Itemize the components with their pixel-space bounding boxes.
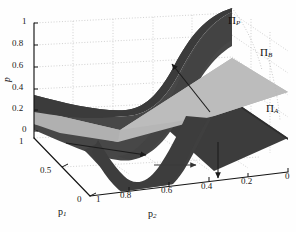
tick-p2-02: 0.2: [241, 176, 252, 186]
tick-p-0: 0: [22, 124, 27, 134]
plot-canvas: [0, 0, 296, 232]
tick-p2-1: 1: [96, 194, 101, 204]
tick-p1-1: 1: [19, 136, 24, 146]
tick-p2-08: 0.8: [120, 190, 131, 200]
axis-label-p1: p1: [58, 206, 67, 218]
tick-p-08: 0.8: [12, 38, 23, 48]
surface-label-pi-p: ΠP: [228, 14, 240, 27]
axis-label-p2: p2: [148, 208, 157, 220]
tick-p2-0: 0: [285, 171, 290, 181]
axis-label-p: p: [2, 77, 12, 82]
tick-p-1: 1: [22, 16, 27, 26]
tick-p-04: 0.4: [12, 82, 23, 92]
tick-p1-0: 0: [77, 194, 82, 204]
tick-p1-05: 0.5: [40, 165, 51, 175]
tick-p-02: 0.2: [12, 103, 23, 113]
surface-label-pi-b: ΠB: [260, 46, 272, 59]
tick-p2-06: 0.6: [161, 185, 172, 195]
tick-p2-04: 0.4: [201, 181, 212, 191]
tick-p-06: 0.6: [12, 60, 23, 70]
surface-plot-figure: 1 0.8 0.6 0.4 0.2 0 p 1 0.5 0 p1 1 0.8 0…: [0, 0, 296, 232]
surface-label-pi-a: ΠA: [266, 102, 278, 115]
